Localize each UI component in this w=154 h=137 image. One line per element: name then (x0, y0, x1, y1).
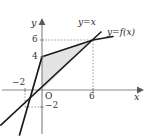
x-axis-label: x (134, 92, 139, 102)
tick-label-x-minus2: −2 (12, 78, 25, 87)
y-axis-arrow (39, 18, 46, 25)
function-curve-label: y=f(x) (107, 28, 135, 37)
math-figure: y x O −2 6 −2 4 6 y=x y=f(x) (0, 0, 154, 137)
tick-label-y-6: 6 (32, 35, 38, 44)
identity-line-label: y=x (78, 18, 96, 27)
graph-canvas (0, 0, 154, 137)
tick-label-y-minus2: −2 (45, 101, 58, 110)
tick-label-y-4: 4 (32, 52, 38, 61)
y-axis-label: y (31, 18, 36, 28)
tick-label-x-6: 6 (89, 92, 95, 101)
